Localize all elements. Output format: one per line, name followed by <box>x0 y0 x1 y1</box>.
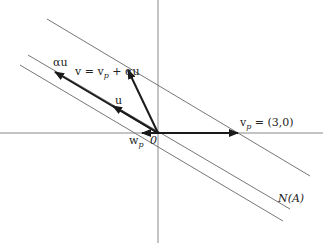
alpha-u-label: αu <box>53 56 68 69</box>
null-space-label: N(A) <box>277 192 304 205</box>
vp-label: vp = (3,0) <box>239 116 294 131</box>
v-equation-label: v = vp + αu <box>74 65 140 80</box>
wp-label: wp <box>129 134 144 149</box>
origin-label: 0 <box>150 134 157 147</box>
u-label: u <box>115 94 122 107</box>
affine-line-through-vp <box>47 19 310 176</box>
diagram-canvas: αu v = vp + αu u vp = (3,0) wp 0 N(A) <box>0 0 323 249</box>
